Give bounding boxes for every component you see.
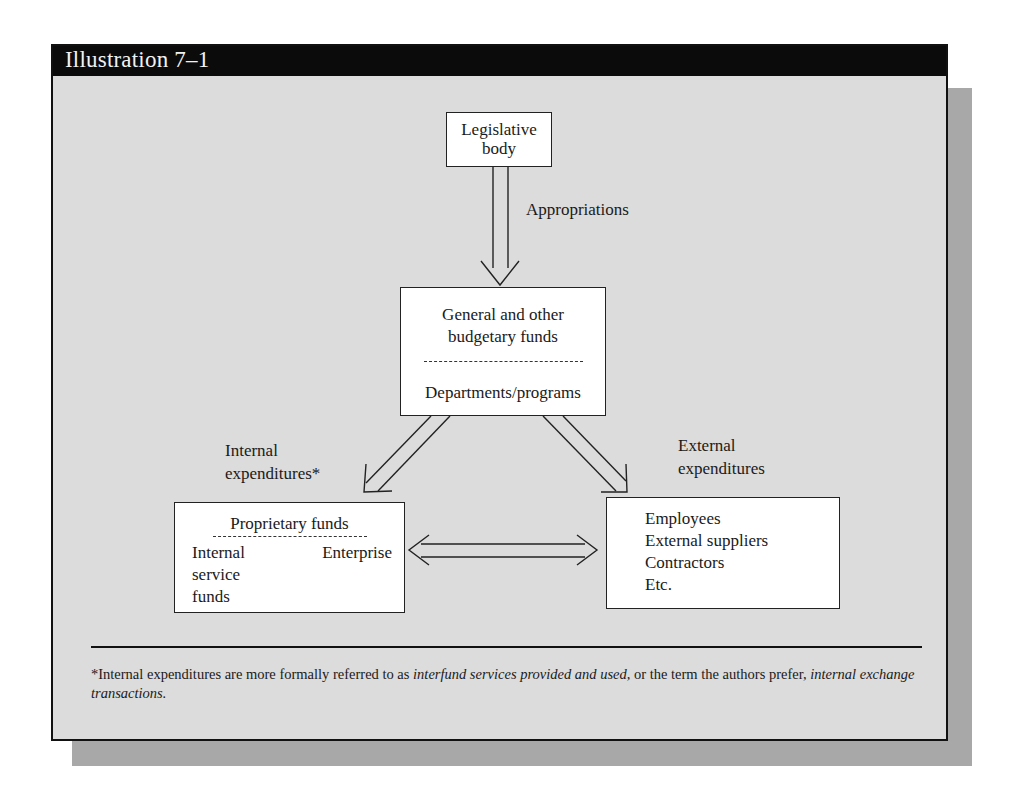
- external-expenditures-arrow: [543, 416, 627, 492]
- internal-expenditures-label-2: expenditures*: [225, 464, 320, 483]
- legislative-body-node: Legislative body: [446, 112, 552, 167]
- departments-programs-label: Departments/programs: [401, 383, 605, 402]
- external-parties-node: Employees External suppliers Contractors…: [606, 497, 840, 609]
- proprietary-divider: [213, 536, 367, 537]
- appropriations-arrow: [481, 166, 519, 285]
- external-expenditures-label-2: expenditures: [678, 459, 765, 478]
- general-line-2: budgetary funds: [401, 327, 605, 346]
- internal-expenditures-label-1: Internal: [225, 441, 278, 460]
- footnote: *Internal expenditures are more formally…: [91, 665, 921, 703]
- internal-service-line-1: Internal: [192, 543, 245, 562]
- footnote-text-2: or the term the authors prefer,: [630, 666, 810, 682]
- external-expenditures-label-1: External: [678, 436, 736, 455]
- legislative-line-1: Legislative: [447, 120, 551, 139]
- internal-service-line-3: funds: [192, 587, 230, 606]
- internal-expenditures-arrow: [364, 416, 450, 492]
- external-item-etc: Etc.: [645, 575, 672, 594]
- footnote-text-1: *Internal expenditures are more formally…: [91, 666, 413, 682]
- footnote-italic-1: interfund services provided and used,: [413, 666, 630, 682]
- enterprise-label: Enterprise: [322, 543, 392, 562]
- external-item-contractors: Contractors: [645, 553, 724, 572]
- external-item-suppliers: External suppliers: [645, 531, 768, 550]
- general-divider: [424, 361, 583, 362]
- general-line-1: General and other: [401, 305, 605, 324]
- interfund-bidirectional-arrow: [409, 535, 597, 565]
- proprietary-funds-node: Proprietary funds Internal service funds…: [174, 502, 405, 613]
- proprietary-title: Proprietary funds: [175, 514, 404, 533]
- general-funds-node: General and other budgetary funds Depart…: [400, 287, 606, 416]
- legislative-line-2: body: [447, 139, 551, 158]
- external-item-employees: Employees: [645, 509, 721, 528]
- internal-service-line-2: service: [192, 565, 240, 584]
- footnote-rule: [91, 646, 922, 648]
- appropriations-label: Appropriations: [526, 200, 629, 219]
- illustration-frame: Illustration 7–1: [51, 44, 948, 741]
